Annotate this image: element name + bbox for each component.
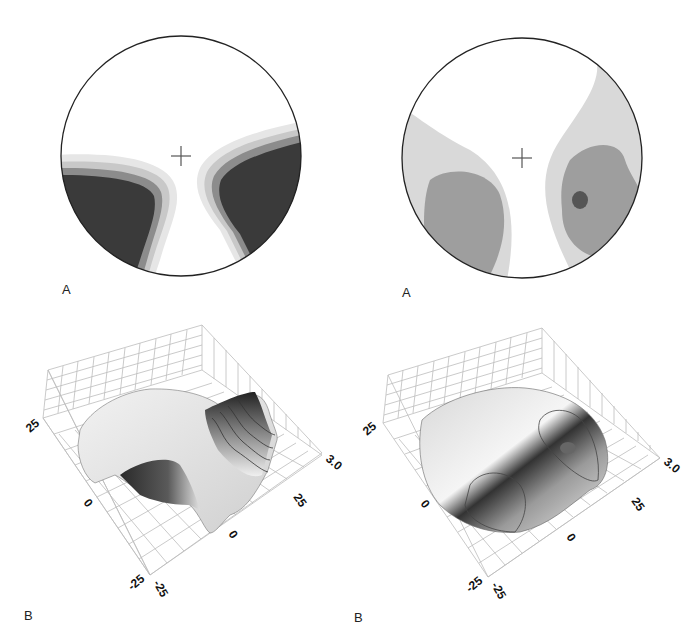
- axis-tick-label: 25: [629, 495, 648, 514]
- panel-bottom-left-surface: 25 0 -25 -25 0 25 3.0 B: [0, 300, 350, 631]
- axis-tick-label: 3.0: [661, 455, 683, 477]
- panel-label: A: [62, 282, 71, 297]
- axis-tick-label: 0: [226, 528, 241, 542]
- axis-tick-label: 25: [291, 491, 310, 510]
- surface-mesh: [420, 388, 608, 533]
- surface-plot-right: 25 0 -25 -25 0 25 3.0: [350, 300, 695, 631]
- axis-tick-label: -25: [488, 580, 509, 602]
- peak-spot: [560, 442, 576, 454]
- axis-tick-label: 3.0: [323, 452, 345, 474]
- axis-tick-label: -25: [150, 578, 171, 600]
- axis-tick-label: 0: [418, 497, 433, 511]
- panel-top-right-contour: A: [350, 0, 695, 300]
- axis-tick-label: 25: [23, 416, 42, 436]
- contour-map-left: [0, 0, 350, 300]
- panel-label: B: [24, 608, 33, 623]
- peak-spot: [572, 191, 588, 209]
- surface-plot-left: 25 0 -25 -25 0 25 3.0: [0, 300, 350, 631]
- axis-tick-label: 25: [360, 419, 379, 439]
- axis-tick-label: 0: [564, 531, 579, 545]
- panel-top-left-contour: A: [0, 0, 350, 300]
- axis-tick-label: -25: [463, 573, 486, 595]
- axis-tick-label: -25: [125, 571, 148, 593]
- panel-label: B: [354, 610, 363, 625]
- panel-bottom-right-surface: 25 0 -25 -25 0 25 3.0 B: [350, 300, 695, 631]
- axis-tick-label: 0: [81, 496, 96, 510]
- panel-label: A: [402, 285, 411, 300]
- contour-map-right: [350, 0, 695, 300]
